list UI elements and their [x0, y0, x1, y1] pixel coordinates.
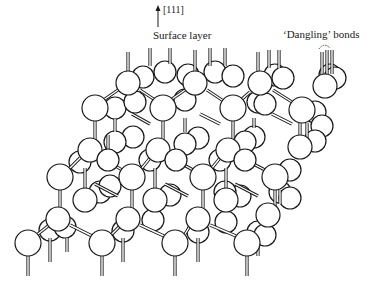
atom-sphere [82, 95, 108, 121]
atom-sphere [183, 71, 207, 95]
atom-sphere [97, 149, 119, 171]
atom-sphere [116, 71, 140, 95]
surface-layer-label: Surface layer [153, 30, 211, 41]
atom-sphere [46, 207, 70, 231]
atom-sphere [47, 164, 73, 190]
atom-sphere [289, 97, 315, 123]
direction-label: [111] [163, 5, 184, 15]
atom-sphere [262, 164, 288, 190]
atom-sphere [234, 149, 256, 171]
bond [200, 114, 220, 124]
atom-sphere [186, 207, 210, 231]
atom-sphere [313, 74, 337, 98]
atom-sphere [143, 188, 167, 212]
atom-sphere [150, 95, 176, 121]
atom-sphere [279, 187, 301, 209]
atom-sphere [222, 65, 244, 87]
atom-sphere [256, 203, 280, 227]
atom-sphere [73, 188, 97, 212]
bond-fill [272, 114, 292, 124]
bond [272, 114, 292, 124]
bond-fill [200, 114, 220, 124]
bond-fill [132, 114, 150, 124]
dangling-bonds-bracket [319, 45, 330, 49]
atom-sphere [234, 230, 260, 256]
atom-sphere [89, 230, 115, 256]
atom-sphere [99, 175, 121, 197]
atom-sphere [154, 61, 176, 83]
atom-sphere [254, 93, 276, 115]
atom-sphere [162, 230, 188, 256]
atom-sphere [15, 230, 41, 256]
bond [132, 114, 150, 124]
atom-sphere [214, 188, 238, 212]
direction-arrow-icon [156, 5, 161, 27]
atom-sphere [220, 95, 246, 121]
atom-sphere [165, 149, 187, 171]
atom-sphere [288, 135, 312, 159]
bond-fill [207, 90, 222, 100]
atom-sphere [190, 164, 216, 190]
atom-sphere [248, 71, 272, 95]
atom-sphere [116, 207, 140, 231]
bond [207, 90, 222, 100]
atom-sphere [272, 67, 294, 89]
arrow-head-icon [156, 5, 161, 11]
dangling-bonds-label: ‘Dangling’ bonds [283, 29, 359, 40]
atom-sphere [119, 164, 145, 190]
diamond-lattice-diagram [0, 0, 372, 290]
